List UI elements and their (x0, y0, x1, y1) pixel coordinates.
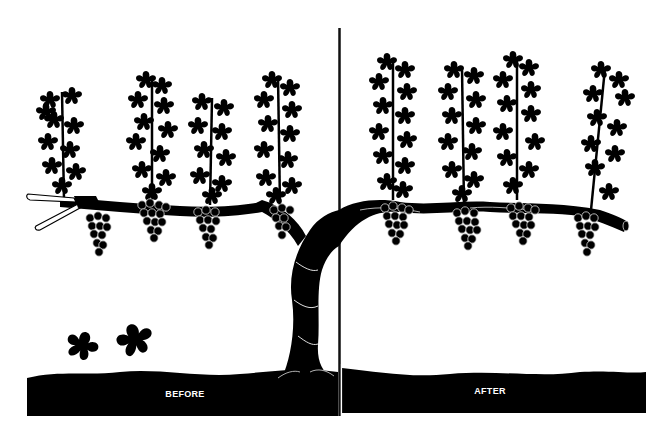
after-label: AFTER (430, 386, 550, 396)
before-label: BEFORE (125, 389, 245, 399)
fallen-leaves (63, 320, 157, 364)
shoots-before (36, 71, 302, 205)
shoots-after (369, 51, 635, 210)
vine-trunk (250, 200, 339, 378)
pruning-diagram: BEFORE AFTER (0, 0, 671, 440)
vine-illustration (0, 0, 671, 440)
